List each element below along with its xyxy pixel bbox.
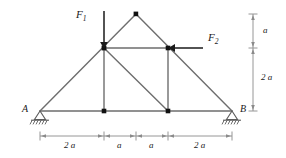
truss-joints — [102, 12, 171, 114]
truss-members — [40, 14, 232, 111]
dimension-line-vertical — [249, 14, 258, 111]
dimension-label-v-1: a — [263, 26, 268, 35]
support-b-triangle — [227, 111, 238, 120]
force-label-f1: F1 — [76, 9, 86, 23]
support-label-b: B — [240, 104, 246, 114]
dimension-label-h-3: a — [149, 141, 154, 150]
member-right-rafter — [136, 14, 232, 111]
joint-right-lower — [166, 109, 171, 114]
diagram-canvas — [0, 0, 286, 158]
dimension-label-h-4: 2 a — [194, 141, 205, 150]
joint-left-upper — [102, 46, 107, 51]
member-diagonal-brace — [104, 48, 168, 111]
support-b-hatching — [222, 120, 239, 124]
joint-left-lower — [102, 109, 107, 114]
member-left-rafter — [40, 14, 136, 111]
support-a — [30, 111, 49, 124]
support-b — [222, 111, 241, 124]
truss-diagram: F1 F2 A B 2 a a a 2 a a 2 a — [0, 0, 286, 158]
support-label-a: A — [22, 104, 28, 114]
support-a-hatching — [30, 120, 47, 124]
force-label-f2: F2 — [208, 32, 218, 46]
dimension-label-v-2: 2 a — [261, 73, 272, 82]
dimension-label-h-1: 2 a — [64, 141, 75, 150]
joint-apex — [134, 12, 139, 17]
joint-right-upper — [166, 46, 171, 51]
dimension-label-h-2: a — [117, 141, 122, 150]
support-a-triangle — [35, 111, 46, 120]
